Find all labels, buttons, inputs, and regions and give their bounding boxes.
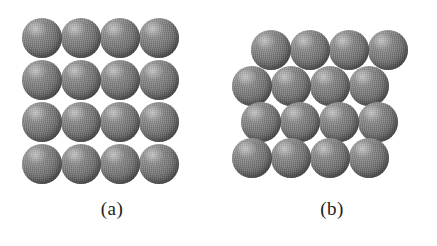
sphere [139, 102, 179, 142]
sphere [22, 60, 62, 100]
sphere-packing-figure: (a)(b) [0, 0, 437, 246]
sphere [310, 66, 350, 106]
sphere [368, 30, 408, 70]
sphere [349, 66, 389, 106]
sphere [100, 102, 140, 142]
sphere [100, 60, 140, 100]
sphere [251, 30, 291, 70]
sphere [271, 66, 311, 106]
sphere [329, 30, 369, 70]
sphere [280, 102, 320, 142]
sphere [139, 18, 179, 58]
panel-caption-b: (b) [280, 198, 384, 220]
sphere [290, 30, 330, 70]
sphere [139, 144, 179, 184]
sphere [349, 138, 389, 178]
sphere [241, 102, 281, 142]
sphere [232, 66, 272, 106]
sphere [61, 102, 101, 142]
sphere [61, 60, 101, 100]
sphere [22, 144, 62, 184]
sphere [358, 102, 398, 142]
sphere [139, 60, 179, 100]
sphere [319, 102, 359, 142]
sphere [61, 18, 101, 58]
sphere [271, 138, 311, 178]
sphere [22, 18, 62, 58]
sphere [100, 18, 140, 58]
sphere [232, 138, 272, 178]
sphere [100, 144, 140, 184]
sphere [310, 138, 350, 178]
sphere [22, 102, 62, 142]
sphere [61, 144, 101, 184]
